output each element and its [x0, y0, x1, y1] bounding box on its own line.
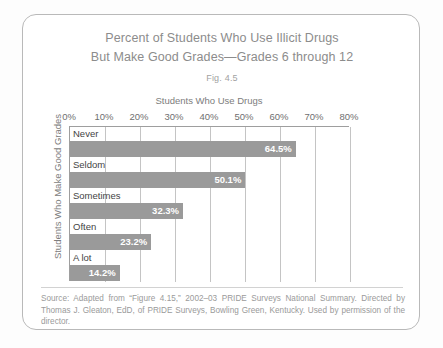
bar-value-label: 50.1%: [214, 172, 241, 188]
bar: 50.1%: [70, 172, 245, 188]
bar-value-label: 14.2%: [89, 265, 116, 281]
figure-title: Percent of Students Who Use Illicit Drug…: [23, 29, 421, 67]
x-tick-label: 30%: [154, 111, 194, 122]
title-line-1: Percent of Students Who Use Illicit Drug…: [23, 29, 421, 48]
bar: 14.2%: [70, 265, 120, 281]
y-axis-title: Students Who Make Good Grades: [52, 107, 63, 267]
bar-value-label: 64.5%: [265, 141, 292, 157]
source-note: Source: Adapted from “Figure 4.15,” 2002…: [41, 293, 405, 328]
bar: 64.5%: [70, 141, 296, 157]
bar-value-label: 32.3%: [152, 203, 179, 219]
title-line-2: But Make Good Grades—Grades 6 through 12: [23, 48, 421, 67]
x-tick-label: 60%: [259, 111, 299, 122]
x-tick-label: 20%: [119, 111, 159, 122]
bar-row: Often23.2%: [70, 220, 350, 251]
figure-card: Percent of Students Who Use Illicit Drug…: [22, 14, 420, 330]
x-tick-label: 70%: [294, 111, 334, 122]
bar: 32.3%: [70, 203, 183, 219]
bar-row: Never64.5%: [70, 127, 350, 158]
category-label: Often: [73, 220, 96, 234]
gridline: [350, 127, 351, 282]
category-label: Seldom: [73, 158, 105, 172]
page-background: Percent of Students Who Use Illicit Drug…: [0, 0, 443, 348]
category-label: Never: [73, 127, 98, 141]
x-tick-label: 50%: [224, 111, 264, 122]
category-label: Sometimes: [73, 189, 121, 203]
x-tick-label: 10%: [84, 111, 124, 122]
figure-caption: Fig. 4.5: [23, 73, 421, 83]
x-axis-tick-labels: 0%10%20%30%40%50%60%70%80%: [69, 111, 349, 124]
x-tick-label: 0%: [49, 111, 89, 122]
x-tick-label: 80%: [329, 111, 369, 122]
x-axis-title: Students Who Use Drugs: [69, 95, 349, 106]
plot-area: Never64.5%Seldom50.1%Sometimes32.3%Often…: [69, 126, 349, 281]
x-tick-label: 40%: [189, 111, 229, 122]
bar-row: Sometimes32.3%: [70, 189, 350, 220]
bar: 23.2%: [70, 234, 151, 250]
bar-row: Seldom50.1%: [70, 158, 350, 189]
source-divider: [41, 287, 403, 288]
bar-chart: Students Who Use Drugs Students Who Make…: [23, 95, 421, 281]
category-label: A lot: [73, 251, 92, 265]
bar-value-label: 23.2%: [120, 234, 147, 250]
bar-row: A lot14.2%: [70, 251, 350, 282]
